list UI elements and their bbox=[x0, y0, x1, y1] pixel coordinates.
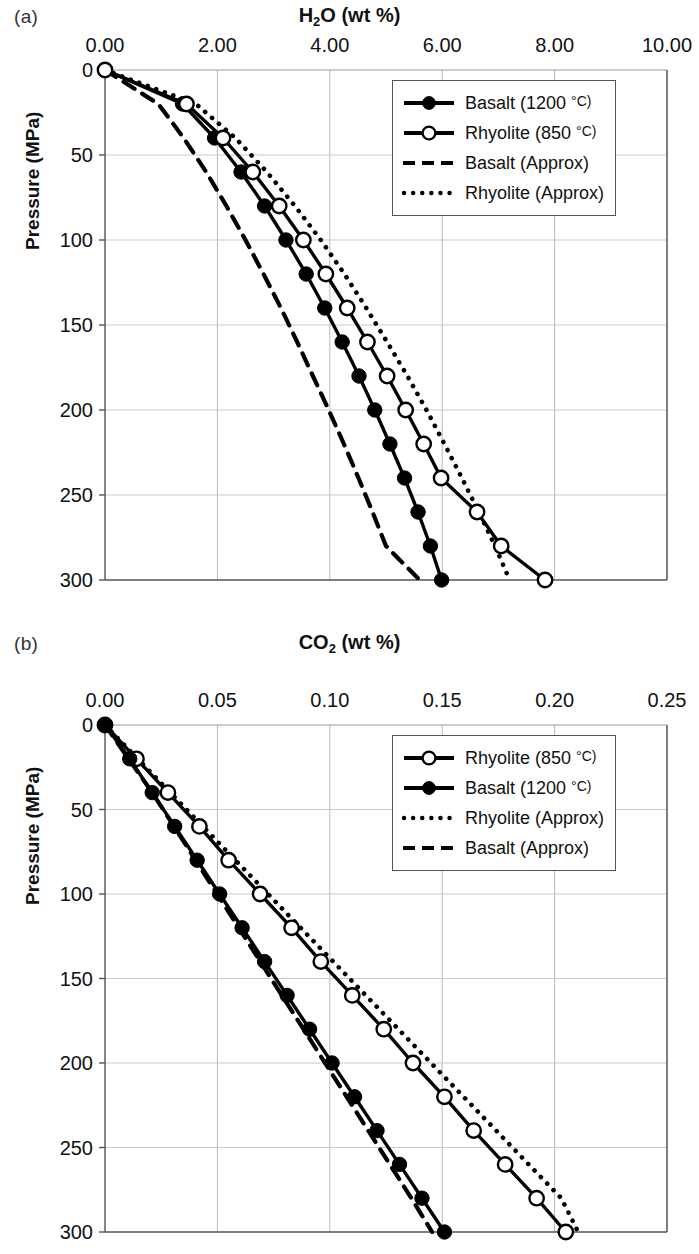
legend-key-dashed-icon bbox=[402, 839, 456, 857]
legend-label: Basalt (1200 °C) bbox=[465, 93, 591, 114]
panel-b-plot bbox=[0, 627, 699, 1254]
legend-item: Basalt (1200 °C) bbox=[402, 773, 604, 803]
legend-item: Basalt (Approx) bbox=[402, 833, 604, 863]
legend-key-line-open-icon bbox=[402, 124, 456, 142]
legend-key-dashed-icon bbox=[402, 154, 456, 172]
legend-label-text: Basalt (1200 bbox=[465, 93, 571, 113]
legend-label-degree: °C) bbox=[571, 93, 591, 109]
panel-b: (b) CO2 (wt %) Pressure (MPa) 0.000.050.… bbox=[0, 627, 699, 1254]
legend-label: Basalt (Approx) bbox=[465, 153, 589, 174]
legend-label: Rhyolite (Approx) bbox=[465, 808, 604, 829]
legend-label-text: Rhyolite (Approx) bbox=[465, 183, 604, 203]
legend-label: Rhyolite (Approx) bbox=[465, 183, 604, 204]
legend-label-text: Rhyolite (Approx) bbox=[465, 808, 604, 828]
legend-key-line-filled-icon bbox=[402, 94, 456, 112]
legend-label-text: Rhyolite (850 bbox=[465, 748, 576, 768]
legend-label-text: Basalt (Approx) bbox=[465, 153, 589, 173]
legend-label-text: Basalt (Approx) bbox=[465, 838, 589, 858]
legend-label: Basalt (Approx) bbox=[465, 838, 589, 859]
panel-a: (a) H2O (wt %) Pressure (MPa) 0.002.004.… bbox=[0, 0, 699, 627]
legend-label-text: Rhyolite (850 bbox=[465, 123, 576, 143]
legend-label-degree: °C) bbox=[571, 778, 591, 794]
legend-item: Rhyolite (850 °C) bbox=[402, 743, 604, 773]
legend-label-degree: °C) bbox=[576, 748, 596, 764]
legend-key-dotted-icon bbox=[402, 809, 456, 827]
legend-label: Rhyolite (850 °C) bbox=[465, 123, 596, 144]
legend-label: Basalt (1200 °C) bbox=[465, 778, 591, 799]
legend-item: Rhyolite (Approx) bbox=[402, 178, 604, 208]
legend-item: Basalt (Approx) bbox=[402, 148, 604, 178]
panel-b-legend: Rhyolite (850 °C)Basalt (1200 °C)Rhyolit… bbox=[392, 735, 616, 871]
legend-label-text: Basalt (1200 bbox=[465, 778, 571, 798]
legend-label-degree: °C) bbox=[576, 123, 596, 139]
legend-item: Rhyolite (Approx) bbox=[402, 803, 604, 833]
panel-a-legend: Basalt (1200 °C)Rhyolite (850 °C)Basalt … bbox=[392, 80, 616, 216]
legend-item: Basalt (1200 °C) bbox=[402, 88, 604, 118]
legend-key-line-filled-icon bbox=[402, 779, 456, 797]
legend-key-dotted-icon bbox=[402, 184, 456, 202]
legend-item: Rhyolite (850 °C) bbox=[402, 118, 604, 148]
legend-key-line-open-icon bbox=[402, 749, 456, 767]
legend-label: Rhyolite (850 °C) bbox=[465, 748, 596, 769]
